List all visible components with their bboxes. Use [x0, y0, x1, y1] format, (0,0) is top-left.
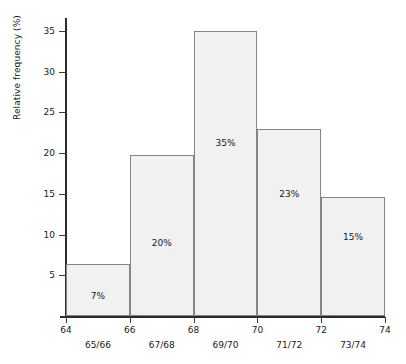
bar-value-label: 20% — [152, 238, 172, 248]
x-tick — [385, 317, 386, 323]
y-tick-label: 30 — [25, 67, 55, 77]
y-tick — [59, 112, 66, 113]
bar-value-label: 23% — [279, 189, 299, 199]
y-tick-label: 25 — [25, 107, 55, 117]
x-tick — [66, 317, 67, 323]
y-tick-label: 35 — [25, 26, 55, 36]
x-tick-label: 70 — [252, 325, 263, 335]
histogram-bar — [321, 197, 385, 316]
y-tick — [59, 194, 66, 195]
x-tick-label: 72 — [315, 325, 326, 335]
y-tick — [59, 153, 66, 154]
y-tick-label: 5 — [25, 270, 55, 280]
y-tick-label: 20 — [25, 148, 55, 158]
y-tick — [59, 235, 66, 236]
bar-value-label: 7% — [91, 291, 105, 301]
x-tick-label: 66 — [124, 325, 135, 335]
y-tick — [59, 275, 66, 276]
histogram-bar — [257, 129, 321, 316]
y-tick-label: 10 — [25, 230, 55, 240]
y-tick-label: 15 — [25, 189, 55, 199]
histogram-bar — [194, 31, 258, 316]
x-tick — [321, 317, 322, 323]
bar-value-label: 15% — [343, 232, 363, 242]
bin-label: 73/74 — [340, 340, 366, 350]
x-tick-label: 64 — [60, 325, 71, 335]
y-tick — [59, 72, 66, 73]
histogram-chart: Relative frequency (%) 5101520253035 646… — [0, 0, 406, 364]
x-tick — [130, 317, 131, 323]
histogram-bar — [130, 155, 194, 316]
x-tick — [194, 317, 195, 323]
x-tick-label: 74 — [379, 325, 390, 335]
x-tick-label: 68 — [188, 325, 199, 335]
bin-label: 69/70 — [213, 340, 239, 350]
x-axis-line — [60, 316, 385, 318]
bin-label: 65/66 — [85, 340, 111, 350]
bar-value-label: 35% — [215, 138, 235, 148]
bin-label: 67/68 — [149, 340, 175, 350]
x-tick — [257, 317, 258, 323]
y-tick — [59, 31, 66, 32]
bin-label: 71/72 — [276, 340, 302, 350]
plot-area: 5101520253035 646668707274 7%20%35%23%15… — [0, 0, 406, 364]
